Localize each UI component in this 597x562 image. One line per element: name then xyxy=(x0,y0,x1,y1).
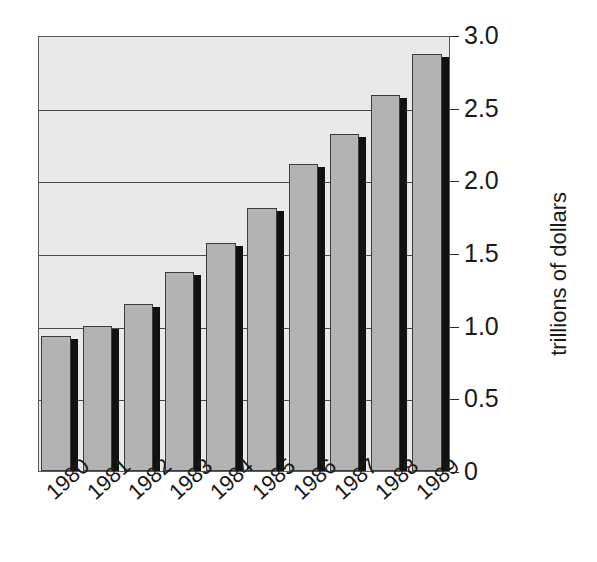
bar-body-1989 xyxy=(412,54,441,471)
bar-1983 xyxy=(165,269,201,471)
bar-shadow-1985 xyxy=(277,211,284,472)
bar-shadow-1981 xyxy=(112,329,119,472)
y-tick-3 xyxy=(450,36,459,37)
bar-body-1983 xyxy=(165,272,194,471)
bar-shadow-1987 xyxy=(359,137,366,472)
bar-shadow-1986 xyxy=(318,167,325,472)
bar-1981 xyxy=(83,323,119,471)
y-axis-title: trillions of dollars xyxy=(546,192,572,356)
y-tick-2-5 xyxy=(450,109,459,110)
bar-body-1988 xyxy=(371,95,400,471)
bars xyxy=(39,37,449,471)
bar-body-1986 xyxy=(289,164,318,471)
bar-1987 xyxy=(330,131,366,471)
y-tick-label-2-5: 2.5 xyxy=(464,96,499,121)
bar-1989 xyxy=(412,51,448,471)
bar-1986 xyxy=(289,161,325,471)
bar-body-1987 xyxy=(330,134,359,471)
bar-shadow-1988 xyxy=(400,98,407,472)
plot-area xyxy=(38,36,450,472)
y-tick-1-5 xyxy=(450,254,459,255)
bar-body-1981 xyxy=(83,326,112,471)
y-tick-label-3: 3.0 xyxy=(464,23,499,48)
bar-body-1980 xyxy=(41,336,70,471)
bar-shadow-1983 xyxy=(194,275,201,472)
y-tick-label-2: 2.0 xyxy=(464,168,499,193)
y-tick-label-1-5: 1.5 xyxy=(464,241,499,266)
bar-chart-figure: 00.51.01.52.02.53.0 trillions of dollars… xyxy=(0,0,597,562)
y-tick-label-1: 1.0 xyxy=(464,314,499,339)
bar-shadow-1989 xyxy=(442,57,449,472)
bar-1982 xyxy=(124,301,160,471)
bar-1985 xyxy=(247,205,283,471)
y-tick-2 xyxy=(450,181,459,182)
bar-body-1984 xyxy=(206,243,235,471)
y-tick-1 xyxy=(450,327,459,328)
bar-1988 xyxy=(371,92,407,471)
bar-shadow-1984 xyxy=(236,246,243,472)
y-tick-0-5 xyxy=(450,399,459,400)
bar-1980 xyxy=(41,333,77,471)
x-axis: 1980198119821983198419851986198719881989 xyxy=(0,472,597,562)
bar-body-1982 xyxy=(124,304,153,471)
bar-shadow-1982 xyxy=(153,307,160,472)
bar-body-1985 xyxy=(247,208,276,471)
bar-1984 xyxy=(206,240,242,471)
y-tick-label-0-5: 0.5 xyxy=(464,386,499,411)
